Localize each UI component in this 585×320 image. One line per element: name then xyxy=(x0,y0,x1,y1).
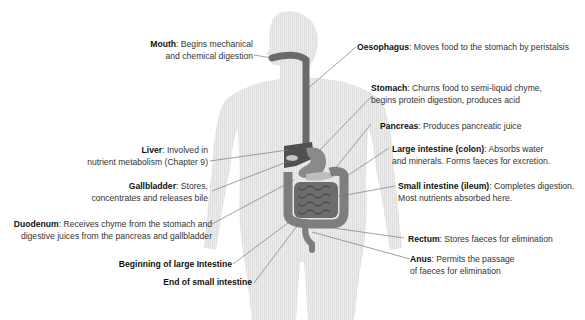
label-liver: Liver: Involved in nutrient metabolism (… xyxy=(60,145,208,168)
label-mouth: Mouth: Begins mechanical and chemical di… xyxy=(105,39,253,62)
label-stomach: Stomach: Churns food to semi-liquid chym… xyxy=(371,83,542,106)
label-pancreas: Pancreas: Produces pancreatic juice xyxy=(380,121,521,133)
digestive-system-diagram: Mouth: Begins mechanical and chemical di… xyxy=(0,0,585,320)
label-rectum: Rectum: Stores faeces for elimination xyxy=(408,234,553,246)
label-oesophagus: Oesophagus: Moves food to the stomach by… xyxy=(357,42,569,54)
label-gallbladder: Gallbladder: Stores, concentrates and re… xyxy=(60,181,208,204)
label-anus: Anus: Permits the passage of faeces for … xyxy=(410,254,515,277)
label-end-small-intestine: End of small intestine xyxy=(80,277,252,289)
label-duodenum: Duodenum: Receives chyme from the stomac… xyxy=(0,219,212,242)
label-beginning-large-intestine: Beginning of large Intestine xyxy=(60,259,232,271)
label-large-intestine: Large intestine (colon): Absorbs water a… xyxy=(392,144,550,167)
small-intestine-shape xyxy=(294,182,338,218)
label-small-intestine: Small intestine (ileum): Completes diges… xyxy=(398,181,574,204)
